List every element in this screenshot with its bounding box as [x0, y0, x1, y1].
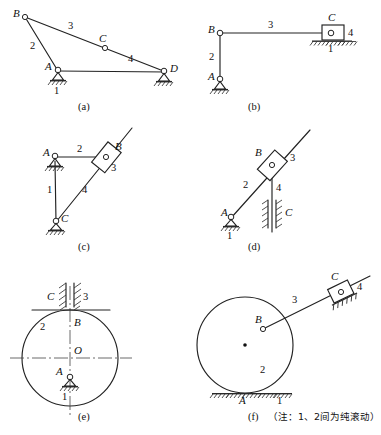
panel-f-link3-line: [263, 276, 370, 329]
mechanism-figure: B C A D 2 3 4 1 (a): [0, 0, 381, 435]
panel-a-label-C: C: [99, 32, 107, 44]
panel-f-label-link4: 4: [357, 281, 363, 292]
panel-a-label-D: D: [169, 62, 178, 74]
panel-d: B A C 3 2 4 1 (d): [220, 130, 310, 253]
panel-c-label-C: C: [61, 212, 69, 224]
panel-f-label-C: C: [331, 270, 339, 282]
panel-b-joint-B: [217, 30, 223, 36]
panel-c-label-B: B: [115, 140, 122, 152]
panel-b-label-link3: 3: [268, 19, 273, 30]
panel-f-disc-center: [243, 343, 247, 347]
panel-a-link1-line: [58, 71, 166, 72]
figure-note: （注：1、2间为纯滚动）: [268, 411, 380, 422]
panel-c-label-link3: 3: [111, 162, 116, 173]
panel-b-label-B: B: [208, 23, 215, 35]
panel-e-support-A: [60, 374, 79, 391]
panel-f-joint-C: [338, 289, 343, 294]
panel-e-label-C: C: [47, 290, 55, 302]
panel-d-label-link3: 3: [290, 152, 295, 163]
panel-d-label-A: A: [220, 206, 228, 218]
panel-a-label-A: A: [44, 60, 52, 72]
panel-a-caption: (a): [78, 101, 90, 113]
panel-b-label-A: A: [207, 70, 215, 82]
panel-a: B C A D 2 3 4 1 (a): [13, 7, 178, 113]
panel-c-label-link2: 2: [77, 143, 82, 154]
panel-a-label-link2: 2: [30, 40, 35, 51]
panel-d-label-C: C: [285, 206, 293, 218]
panel-a-label-link4: 4: [128, 53, 134, 64]
panel-f: C B A 3 4 2 1 (f) （注：1、2间为纯滚动）: [197, 270, 380, 423]
panel-f-label-link1: 1: [277, 395, 282, 406]
panel-d-label-B: B: [255, 146, 262, 158]
panel-d-label-link4: 4: [276, 182, 282, 193]
panel-c-link1-line: [55, 161, 56, 222]
panel-a-label-link3: 3: [68, 20, 73, 31]
panel-d-caption: (d): [248, 241, 261, 253]
panel-e-label-B: B: [74, 316, 81, 328]
panel-c-label-A: A: [42, 146, 50, 158]
panel-f-joint-B: [260, 326, 265, 331]
panel-b: B C A 3 2 4 1 (b): [207, 11, 357, 113]
panel-c-caption: (c): [78, 241, 90, 253]
panel-e-label-O: O: [74, 344, 82, 356]
panel-b-label-C: C: [328, 11, 336, 23]
panel-d-label-link2: 2: [243, 179, 248, 190]
panel-b-label-link1: 1: [328, 43, 333, 54]
panel-f-label-link3: 3: [292, 294, 297, 305]
panel-b-caption: (b): [248, 101, 261, 113]
panel-e-label-link3: 3: [83, 291, 88, 302]
mechanism-diagram-canvas: B C A D 2 3 4 1 (a): [0, 0, 381, 435]
panel-e-caption: (e): [78, 411, 90, 423]
panel-b-label-link2: 2: [209, 51, 214, 62]
panel-c-joint-B: [103, 154, 108, 159]
panel-a-joint-B: [22, 14, 27, 19]
panel-f-label-B: B: [255, 313, 262, 325]
panel-d-label-link1: 1: [227, 230, 232, 241]
panel-c-label-link4: 4: [82, 184, 88, 195]
panel-a-label-B: B: [13, 7, 20, 19]
panel-e-label-link2: 2: [40, 321, 45, 332]
panel-e-label-A: A: [55, 365, 63, 377]
panel-c: A B C 2 3 1 4 (c): [42, 128, 132, 253]
panel-e: C B O A 3 2 1 (e): [10, 283, 132, 423]
panel-f-label-A: A: [238, 394, 246, 406]
panel-c-label-link1: 1: [47, 184, 52, 195]
panel-e-label-link1: 1: [62, 391, 67, 402]
panel-a-joint-C: [102, 45, 107, 50]
panel-d-joint-B: [269, 162, 274, 167]
panel-f-caption: (f): [248, 411, 259, 423]
panel-f-label-link2: 2: [260, 364, 265, 375]
panel-b-label-link4: 4: [348, 27, 354, 38]
panel-a-label-link1: 1: [54, 85, 59, 96]
